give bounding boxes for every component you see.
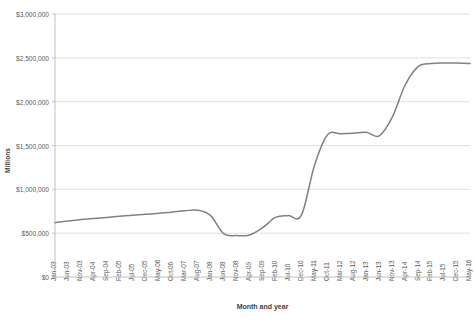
x-axis-title: Month and year (55, 303, 470, 310)
plot-area (0, 0, 475, 319)
y-axis-tickmarks (52, 14, 55, 277)
gridlines (55, 14, 470, 233)
data-series-line (55, 63, 470, 236)
line-chart: Millions $0$500,000$1,000,000$1,500,000$… (0, 0, 475, 319)
x-axis-tickmarks (55, 277, 470, 280)
